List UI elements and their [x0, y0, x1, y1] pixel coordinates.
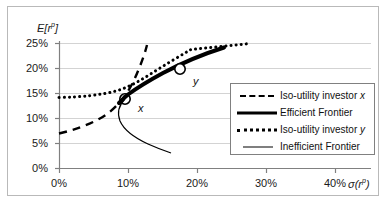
chart-figure: E[rp] σ(rp) 25% 20% 15% 10% 5% 0% 0% 10%…: [0, 0, 389, 204]
annotation-point-x: x: [138, 102, 144, 114]
x-tick-label-20: 20%: [177, 177, 217, 189]
legend-label-iso-utility-x: Iso-utility investor x: [280, 90, 365, 101]
series-efficient-frontier: [119, 48, 224, 104]
legend-label-efficient-frontier: Efficient Frontier: [280, 107, 353, 118]
legend-item-iso-utility-x: Iso-utility investor x: [231, 87, 374, 104]
y-axis-title: E[rp]: [37, 21, 58, 34]
y-tick-label-5: 5%: [14, 137, 48, 149]
marker-point-y: [175, 64, 185, 74]
x-tick-label-0: 0%: [39, 177, 79, 189]
legend-swatch-thin-solid: [237, 141, 277, 153]
legend-label-inefficient-frontier: Inefficient Frontier: [280, 141, 360, 152]
series-inefficient-frontier: [119, 99, 171, 153]
y-tick-label-10: 10%: [14, 112, 48, 124]
legend-item-iso-utility-y: Iso-utility investor y: [231, 121, 374, 138]
legend-label-iso-utility-y: Iso-utility investor y: [280, 124, 365, 135]
y-tick-label-25: 25%: [14, 37, 48, 49]
annotation-point-y: y: [193, 75, 199, 87]
legend-swatch-thick-solid: [237, 107, 277, 119]
y-tick-label-15: 15%: [14, 87, 48, 99]
legend-item-inefficient-frontier: Inefficient Frontier: [231, 138, 374, 155]
y-tick-label-20: 20%: [14, 62, 48, 74]
x-tick-label-10: 10%: [108, 177, 148, 189]
legend-swatch-dotted: [237, 124, 277, 136]
x-tick-label-40: 40%: [315, 177, 355, 189]
y-tick-label-0: 0%: [14, 162, 48, 174]
chart-frame: E[rp] σ(rp) 25% 20% 15% 10% 5% 0% 0% 10%…: [7, 6, 379, 196]
legend-swatch-dashed: [237, 90, 277, 102]
legend-item-efficient-frontier: Efficient Frontier: [231, 104, 374, 121]
x-tick-label-30: 30%: [246, 177, 286, 189]
series-iso-utility-y: [59, 44, 250, 98]
chart-legend: Iso-utility investor x Efficient Frontie…: [230, 83, 375, 155]
